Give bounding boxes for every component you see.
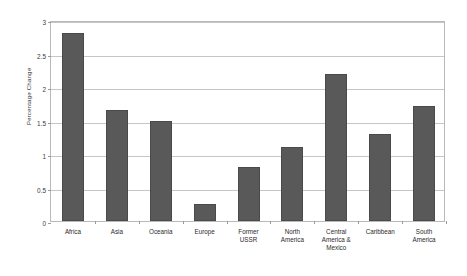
bar <box>325 74 347 221</box>
x-axis-tick-mark <box>183 221 184 224</box>
bar-chart-figure: Percentage Change 00.511.522.53 AfricaAs… <box>0 0 467 276</box>
plot-area: 00.511.522.53 AfricaAsiaOceaniaEuropeFor… <box>50 21 445 222</box>
x-axis-category-label: Africa <box>65 228 81 236</box>
y-axis-tick-mark <box>48 56 51 57</box>
y-axis-tick-label: 0 <box>42 220 46 227</box>
x-axis-category-label: Former USSR <box>238 228 258 244</box>
x-axis-tick-mark <box>95 221 96 224</box>
y-axis-tick-label: 3 <box>42 19 46 26</box>
bar <box>194 204 216 221</box>
x-axis-tick-mark <box>314 221 315 224</box>
y-axis-tick-mark <box>48 123 51 124</box>
gridline <box>51 22 444 23</box>
y-axis-tick-mark <box>48 89 51 90</box>
x-axis-tick-mark <box>446 221 447 224</box>
y-axis-tick-mark <box>48 22 51 23</box>
y-axis-title: Percentage Change <box>25 27 32 167</box>
gridline <box>51 56 444 57</box>
x-axis-tick-mark <box>402 221 403 224</box>
bar <box>150 121 172 222</box>
gridline <box>51 89 444 90</box>
x-axis-tick-mark <box>227 221 228 224</box>
y-axis-tick-label: 2 <box>42 86 46 93</box>
x-axis-category-label: South America <box>413 228 436 244</box>
y-axis-tick-mark <box>48 190 51 191</box>
bar <box>281 147 303 221</box>
x-axis-category-label: Caribbean <box>366 228 395 236</box>
bar <box>238 167 260 221</box>
x-axis-category-label: Oceania <box>149 228 172 236</box>
y-axis-tick-label: 2.5 <box>37 52 46 59</box>
x-axis-category-label: Central America & Mexico <box>322 228 351 253</box>
bar <box>106 110 128 221</box>
y-axis-tick-label: 1.5 <box>37 119 46 126</box>
x-axis-tick-mark <box>139 221 140 224</box>
x-axis-tick-mark <box>270 221 271 224</box>
bar <box>62 33 84 221</box>
bar <box>369 134 391 221</box>
y-axis-tick-label: 0.5 <box>37 186 46 193</box>
y-axis-tick-label: 1 <box>42 153 46 160</box>
x-axis-category-label: North America <box>281 228 304 244</box>
x-axis-category-label: Europe <box>194 228 214 236</box>
x-axis-tick-mark <box>358 221 359 224</box>
bar <box>413 106 435 221</box>
y-axis-tick-mark <box>48 223 51 224</box>
x-axis-category-label: Asia <box>111 228 123 236</box>
y-axis-tick-mark <box>48 156 51 157</box>
